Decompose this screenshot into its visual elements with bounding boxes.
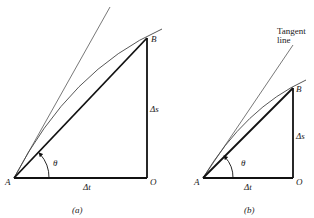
point-b-label: B — [151, 34, 157, 44]
figure-a: A O B Δs Δt θ (a) — [4, 7, 162, 215]
point-o-label: O — [296, 177, 303, 187]
tangent-label-line2: line — [277, 35, 291, 45]
caption-a: (a) — [72, 205, 83, 215]
point-b-label: B — [296, 84, 302, 94]
caption-b: (b) — [244, 205, 255, 215]
delta-s-label: Δs — [295, 131, 305, 141]
delta-t-label: Δt — [243, 182, 252, 192]
point-a-label: A — [193, 177, 200, 187]
delta-s-label: Δs — [149, 104, 159, 114]
theta-arc-b — [225, 157, 233, 178]
theta-label: θ — [53, 158, 58, 168]
point-a-label: A — [4, 177, 11, 187]
chord-ab-b — [203, 88, 293, 178]
point-o-label: O — [150, 177, 157, 187]
theta-arc-a — [40, 154, 49, 178]
theta-label: θ — [241, 158, 246, 168]
delta-t-label: Δt — [82, 182, 91, 192]
figure-b: A O B Δs Δt θ (b) Tangent line — [193, 26, 306, 215]
diagram-canvas: A O B Δs Δt θ (a) A O B Δs Δt θ (b) Tang… — [0, 0, 314, 218]
